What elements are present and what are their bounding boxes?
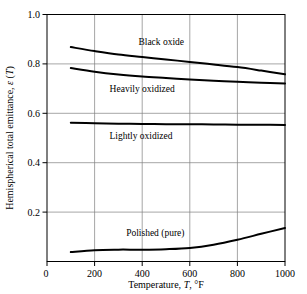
y-axis-title-part-1: Hemispherical total emittance, xyxy=(4,85,15,210)
series-label: Black oxide xyxy=(138,37,184,47)
x-tick-label: 200 xyxy=(87,268,102,279)
x-axis-title-part-2: , °F xyxy=(189,279,204,290)
x-axis-title-text: Temperature, T, °F xyxy=(128,279,204,290)
y-axis-title: Hemispherical total emittance, ε (T) xyxy=(4,66,16,210)
x-axis-title-part-1: Temperature, xyxy=(128,279,183,290)
y-axis-title-part-3: ) xyxy=(4,66,16,69)
y-tick-label: 1.0 xyxy=(28,9,41,20)
y-axis-title-text: Hemispherical total emittance, ε (T) xyxy=(4,66,16,210)
y-tick-label: 0.2 xyxy=(28,207,41,218)
emittance-chart: 20040060080010000 0.20.40.60.81.0 Black … xyxy=(0,0,307,294)
y-tick-label: 0.6 xyxy=(28,108,41,119)
series-label: Lightly oxidized xyxy=(109,131,172,141)
x-tick-label: 1000 xyxy=(275,268,295,279)
x-axis-title: Temperature, T, °F xyxy=(128,279,204,290)
series-label: Polished (pure) xyxy=(126,228,184,239)
y-tick-label: 0.8 xyxy=(28,58,41,69)
x-tick-label: 400 xyxy=(135,268,150,279)
y-tick-label: 0.4 xyxy=(28,157,41,168)
origin-label: 0 xyxy=(44,268,49,279)
x-tick-label: 600 xyxy=(182,268,197,279)
x-tick-label: 800 xyxy=(230,268,245,279)
series-label: Heavily oxidized xyxy=(110,84,175,94)
chart-canvas: 20040060080010000 0.20.40.60.81.0 Black … xyxy=(0,0,307,294)
